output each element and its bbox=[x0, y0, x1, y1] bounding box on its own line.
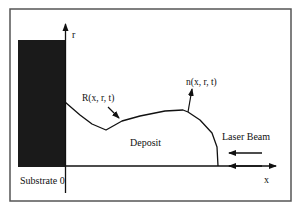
laser-beam-label: Laser Beam bbox=[222, 131, 270, 142]
r-axis-label: r bbox=[72, 29, 76, 40]
deposition-diagram: r x R(x, r, t) n(x, r, t) Deposit Laser … bbox=[0, 0, 300, 213]
deposit-surface-curve bbox=[65, 102, 218, 166]
substrate-label: Substrate 0 bbox=[20, 175, 65, 186]
x-axis-label: x bbox=[264, 174, 269, 185]
surface-function-label: R(x, r, t) bbox=[82, 93, 114, 104]
normal-vector-arrow bbox=[188, 89, 192, 112]
deposit-label: Deposit bbox=[130, 137, 161, 148]
surface-pointer-arrow bbox=[108, 107, 119, 118]
substrate-block bbox=[18, 40, 65, 167]
normal-vector-label: n(x, r, t) bbox=[186, 77, 217, 88]
